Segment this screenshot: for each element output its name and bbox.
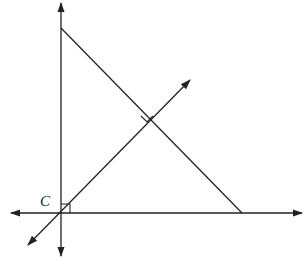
hypotenuse bbox=[61, 28, 242, 213]
right-angle-mark-c bbox=[61, 204, 70, 213]
label-c: C bbox=[40, 193, 50, 210]
geometry-diagram bbox=[0, 0, 307, 261]
perpendicular-line bbox=[28, 80, 190, 245]
